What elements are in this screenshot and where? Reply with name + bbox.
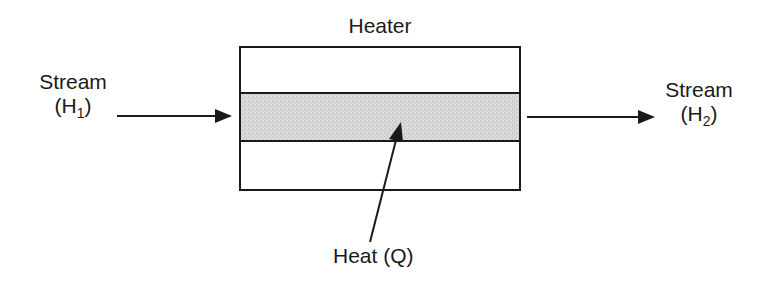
inlet-stream-enthalpy: (H1) <box>28 94 118 118</box>
heat-label: Heat (Q) <box>333 244 414 268</box>
outlet-stream-name: Stream <box>654 78 744 102</box>
outlet-stream-label: Stream (H2) <box>654 78 744 126</box>
heating-band <box>240 93 520 141</box>
inlet-stream-name: Stream <box>28 70 118 94</box>
inlet-arrow <box>117 109 232 123</box>
inlet-stream-label: Stream (H1) <box>28 70 118 118</box>
heater-title: Heater <box>340 14 420 38</box>
outlet-arrow <box>527 110 655 124</box>
outlet-stream-enthalpy: (H2) <box>654 102 744 126</box>
